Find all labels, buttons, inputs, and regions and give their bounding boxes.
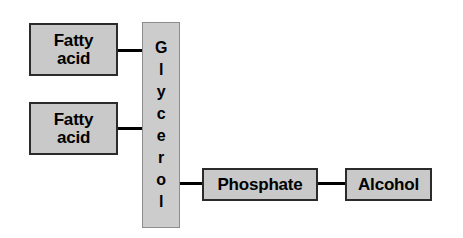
node-glycerol: G l y c e r o l	[142, 22, 180, 228]
glycerol-letter-3: y	[157, 80, 166, 102]
glycerol-letter-8: l	[159, 190, 163, 212]
node-phosphate: Phosphate	[202, 168, 318, 201]
glycerol-letter-7: o	[156, 168, 166, 190]
connector-phosphate-to-alcohol	[314, 182, 349, 185]
alcohol-label: Alcohol	[358, 176, 419, 193]
fatty-acid-1-line-2: acid	[57, 50, 90, 67]
fatty-acid-2-line-2: acid	[57, 129, 90, 146]
fatty-acid-1-line-1: Fatty	[54, 32, 94, 49]
node-fatty-acid-2: Fatty acid	[29, 102, 118, 155]
fatty-acid-2-line-1: Fatty	[54, 111, 94, 128]
node-alcohol: Alcohol	[345, 168, 432, 201]
glycerol-letter-2: l	[159, 58, 163, 80]
phosphate-label: Phosphate	[217, 176, 302, 193]
glycerol-letter-1: G	[155, 36, 167, 58]
node-fatty-acid-1: Fatty acid	[29, 23, 118, 76]
glycerol-letter-6: r	[158, 146, 164, 168]
diagram-canvas: Fatty acid Fatty acid G l y c e r o l Ph…	[0, 0, 463, 238]
glycerol-letter-5: e	[157, 124, 166, 146]
glycerol-letter-4: c	[157, 102, 166, 124]
